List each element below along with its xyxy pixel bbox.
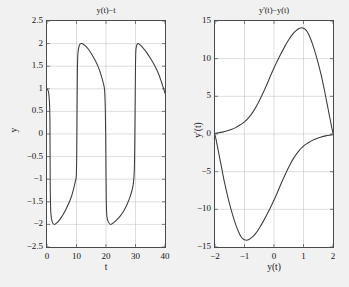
y-tick-label: −2 xyxy=(10,218,43,228)
y-tick-label: −10 xyxy=(178,203,211,213)
x-tick-label: 10 xyxy=(62,251,92,261)
y-tick-label: −2.5 xyxy=(10,241,43,251)
x-tick-label: 20 xyxy=(91,251,121,261)
x-tick-label: 0 xyxy=(259,251,289,261)
y-tick-label: 5 xyxy=(178,90,211,100)
y-tick-label: −1.5 xyxy=(10,196,43,206)
y-tick-label: −15 xyxy=(178,241,211,251)
y-tick-label: 2.5 xyxy=(10,15,43,25)
y-tick-label: 1 xyxy=(10,83,43,93)
left-x-axis-label: t xyxy=(46,262,166,272)
y-tick-label: 0.5 xyxy=(10,105,43,115)
x-tick-label: −2 xyxy=(200,251,230,261)
y-tick-label: −5 xyxy=(178,166,211,176)
x-tick-label: −1 xyxy=(230,251,260,261)
x-tick-label: 1 xyxy=(289,251,319,261)
y-tick-label: 10 xyxy=(178,53,211,63)
x-tick-label: 0 xyxy=(32,251,62,261)
right-plot-area xyxy=(214,20,334,248)
y-tick-label: 0 xyxy=(178,128,211,138)
y-tick-label: 15 xyxy=(178,15,211,25)
y-tick-label: −0.5 xyxy=(10,151,43,161)
right-plot-title: y'(t)−y(t) xyxy=(214,5,334,15)
left-plot-area xyxy=(46,20,166,248)
x-tick-label: 30 xyxy=(121,251,151,261)
x-tick-label: 2 xyxy=(318,251,348,261)
y-tick-label: −1 xyxy=(10,173,43,183)
y-tick-label: 2 xyxy=(10,38,43,48)
x-tick-label: 40 xyxy=(150,251,180,261)
right-x-axis-label: y(t) xyxy=(214,262,334,272)
y-tick-label: 1.5 xyxy=(10,60,43,70)
y-tick-label: 0 xyxy=(10,128,43,138)
right-plot-svg xyxy=(215,21,333,247)
figure-canvas: y(t)−t y t −2.5−2−1.5−1−0.500.511.522.5 … xyxy=(0,0,349,287)
left-plot-svg xyxy=(47,21,165,247)
left-plot-title: y(t)−t xyxy=(46,5,166,15)
